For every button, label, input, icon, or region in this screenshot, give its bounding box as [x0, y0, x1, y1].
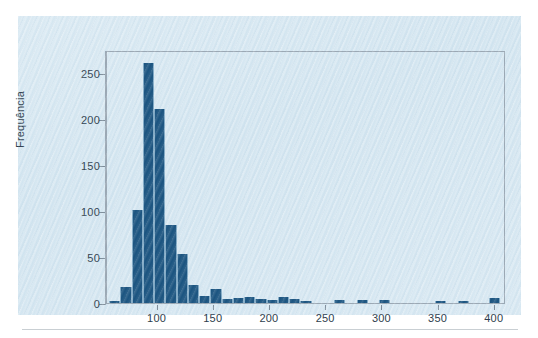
page-divider-rule	[22, 329, 518, 330]
x-axis-tick-label: 100	[132, 312, 182, 324]
y-axis-tick-label: 250	[60, 68, 100, 80]
histogram-bar	[143, 63, 154, 303]
scanned-figure-page: Frequência 050100150200250 1001502002503…	[0, 0, 538, 338]
histogram-bar	[154, 109, 165, 303]
histogram-bar	[244, 297, 255, 303]
histogram-bar	[132, 210, 143, 303]
y-axis-tick-label: 100	[60, 206, 100, 218]
histogram-bar	[289, 299, 300, 303]
plot-area	[106, 51, 505, 304]
histogram-bar	[278, 297, 289, 303]
histogram-bar	[233, 298, 244, 303]
histogram-bar	[334, 300, 345, 303]
x-axis-tick-label: 400	[469, 312, 519, 324]
histogram-bar	[210, 289, 221, 303]
x-axis-tick-label: 300	[356, 312, 406, 324]
histogram-bar	[188, 285, 199, 303]
histogram-bar	[458, 301, 469, 303]
histogram-bars	[107, 52, 504, 303]
x-axis-tick-mark	[157, 305, 158, 310]
y-axis-tick-label: 0	[60, 298, 100, 310]
histogram-bar	[300, 301, 311, 303]
y-axis-tick-label: 200	[60, 114, 100, 126]
histogram-bar	[165, 225, 176, 303]
histogram-bar	[222, 299, 233, 303]
histogram-bar	[379, 300, 390, 303]
x-axis-tick-mark	[269, 305, 270, 310]
histogram-bar	[357, 300, 368, 303]
histogram-bar	[109, 301, 120, 303]
x-axis-tick-label: 350	[413, 312, 463, 324]
figure-panel: Frequência 050100150200250 1001502002503…	[18, 16, 521, 315]
x-axis-tick-mark	[494, 305, 495, 310]
y-axis-tick-label: 50	[60, 252, 100, 264]
histogram-bar	[199, 296, 210, 303]
histogram-bar	[267, 300, 278, 303]
x-axis-tick-label: 250	[300, 312, 350, 324]
x-axis-tick-mark	[325, 305, 326, 310]
histogram-bar	[435, 301, 446, 303]
x-axis-tick-mark	[438, 305, 439, 310]
x-axis-tick-mark	[213, 305, 214, 310]
y-axis-label: Frequência	[14, 91, 26, 148]
histogram-bar	[177, 254, 188, 303]
histogram-bar	[489, 298, 500, 303]
x-axis-tick-mark	[381, 305, 382, 310]
x-axis-tick-label: 200	[244, 312, 294, 324]
y-axis-tick-label: 150	[60, 160, 100, 172]
x-axis-tick-label: 150	[188, 312, 238, 324]
histogram-bar	[255, 299, 266, 303]
histogram-bar	[120, 287, 131, 303]
